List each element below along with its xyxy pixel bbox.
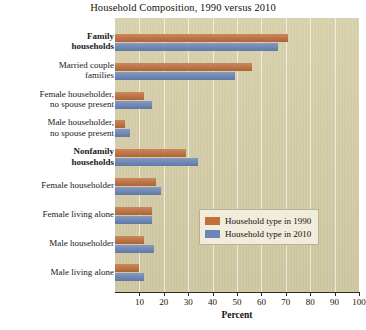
x-tick-mark [164, 292, 165, 296]
bar-1990 [115, 236, 144, 244]
chart-title: Household Composition, 1990 versus 2010 [0, 2, 366, 13]
x-tick-label: 80 [297, 297, 323, 307]
bar-2010 [115, 216, 152, 224]
category-label-line: Male living alone [2, 267, 114, 278]
bar-1990 [115, 264, 139, 272]
bar-2010 [115, 158, 198, 166]
category-label: Male householder,no spouse present [2, 117, 114, 138]
category-label: Married couplefamilies [2, 60, 114, 81]
category-label: Familyhouseholds [2, 31, 114, 52]
bar-2010 [115, 273, 144, 281]
legend-item: Household type in 2010 [205, 227, 311, 240]
bar-1990 [115, 63, 252, 71]
x-tick-mark [188, 292, 189, 296]
bar-1990 [115, 92, 144, 100]
x-axis-title: Percent [115, 310, 359, 320]
x-tick-mark [310, 292, 311, 296]
bar-1990 [115, 207, 152, 215]
gridline [261, 18, 262, 292]
bar-1990 [115, 178, 156, 186]
category-label: Male householder [2, 238, 114, 249]
bar-1990 [115, 120, 125, 128]
legend-item: Household type in 1990 [205, 214, 311, 227]
x-tick-mark [261, 292, 262, 296]
category-label: Female householder [2, 180, 114, 191]
legend-label-1990: Household type in 1990 [225, 216, 311, 226]
category-label-line: Male householder [2, 238, 114, 249]
gridline [335, 18, 336, 292]
gridline [310, 18, 311, 292]
category-label: Female living alone [2, 209, 114, 220]
x-tick-mark [335, 292, 336, 296]
legend-label-2010: Household type in 2010 [225, 229, 311, 239]
category-label-line: households [2, 41, 114, 52]
x-tick-label: 60 [248, 297, 274, 307]
bar-2010 [115, 43, 278, 51]
legend-swatch-2010-icon [205, 230, 220, 238]
bar-2010 [115, 72, 235, 80]
category-label-line: Female living alone [2, 209, 114, 220]
bar-2010 [115, 101, 152, 109]
x-tick-label: 20 [151, 297, 177, 307]
category-label: Nonfamilyhouseholds [2, 146, 114, 167]
x-tick-mark [213, 292, 214, 296]
x-tick-mark [286, 292, 287, 296]
chart-figure: Household Composition, 1990 versus 2010 … [0, 0, 366, 330]
gridline [286, 18, 287, 292]
category-label-line: Male householder, [2, 117, 114, 128]
category-label-line: Female householder [2, 180, 114, 191]
category-label-line: Nonfamily [2, 146, 114, 157]
gridline [213, 18, 214, 292]
bar-1990 [115, 34, 288, 42]
x-tick-label: 10 [126, 297, 152, 307]
x-tick-label: 100 [346, 297, 366, 307]
bar-2010 [115, 187, 161, 195]
category-label-line: no spouse present [2, 128, 114, 139]
category-label-line: Family [2, 31, 114, 42]
bar-2010 [115, 245, 154, 253]
category-label: Male living alone [2, 267, 114, 278]
gridline [188, 18, 189, 292]
legend-swatch-1990-icon [205, 217, 220, 225]
x-tick-mark [237, 292, 238, 296]
gridline [237, 18, 238, 292]
x-tick-label: 40 [200, 297, 226, 307]
bar-1990 [115, 149, 186, 157]
x-tick-mark [139, 292, 140, 296]
category-label-line: households [2, 157, 114, 168]
x-tick-label: 30 [175, 297, 201, 307]
x-tick-label: 70 [273, 297, 299, 307]
x-tick-label: 50 [224, 297, 250, 307]
category-label: Female householder,no spouse present [2, 89, 114, 110]
category-label-line: families [2, 70, 114, 81]
chart-legend: Household type in 1990 Household type in… [199, 209, 319, 245]
category-label-line: Married couple [2, 60, 114, 71]
bar-2010 [115, 129, 130, 137]
category-label-line: no spouse present [2, 99, 114, 110]
plot-area [115, 18, 359, 292]
category-label-line: Female householder, [2, 89, 114, 100]
x-tick-label: 90 [322, 297, 348, 307]
x-tick-mark [359, 292, 360, 296]
